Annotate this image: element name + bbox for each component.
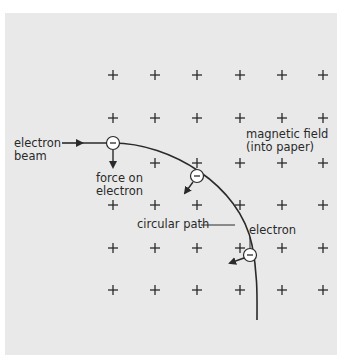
field-plus-icon — [150, 113, 160, 123]
electron-1 — [107, 137, 120, 150]
field-plus-icon — [108, 243, 118, 253]
field-plus-icon — [192, 158, 202, 168]
field-plus-icon — [150, 285, 160, 295]
electron-beam-label-line2: beam — [14, 150, 47, 163]
field-plus-icon — [235, 158, 245, 168]
electron-label: electron — [249, 224, 296, 237]
field-plus-icon — [235, 285, 245, 295]
field-plus-icon — [235, 243, 245, 253]
field-plus-icon — [108, 285, 118, 295]
field-plus-icon — [318, 285, 328, 295]
circular-path-curve — [113, 143, 257, 320]
field-plus-icon — [150, 200, 160, 210]
field-plus-icon — [192, 200, 202, 210]
force-arrow-2 — [185, 182, 193, 193]
electron-2 — [191, 170, 204, 183]
field-plus-icon — [192, 70, 202, 80]
field-plus-icon — [318, 113, 328, 123]
field-plus-icon — [277, 200, 287, 210]
field-plus-icon — [277, 158, 287, 168]
field-plus-icon — [277, 243, 287, 253]
field-plus-icon — [150, 158, 160, 168]
field-plus-icon — [318, 158, 328, 168]
field-plus-icon — [235, 113, 245, 123]
field-plus-icon — [192, 243, 202, 253]
force-arrow-3 — [230, 258, 244, 263]
field-plus-icon — [318, 70, 328, 80]
field-plus-icon — [192, 285, 202, 295]
field-plus-icon — [108, 113, 118, 123]
field-plus-icon — [277, 113, 287, 123]
field-plus-icon — [235, 70, 245, 80]
field-plus-icon — [150, 243, 160, 253]
field-plus-icon — [192, 113, 202, 123]
magnetic-field-label-line2: (into paper) — [246, 141, 314, 154]
field-plus-icon — [318, 200, 328, 210]
field-plus-icon — [277, 285, 287, 295]
field-plus-icon — [108, 70, 118, 80]
electron-3 — [244, 249, 257, 262]
magnetic-field-diagram — [0, 0, 342, 361]
field-plus-icon — [277, 70, 287, 80]
field-plus-icon — [150, 70, 160, 80]
field-plus-icon — [318, 243, 328, 253]
force-label-line2: electron — [96, 185, 143, 198]
field-plus-icon — [108, 200, 118, 210]
circular-path-label: circular path — [137, 218, 209, 231]
